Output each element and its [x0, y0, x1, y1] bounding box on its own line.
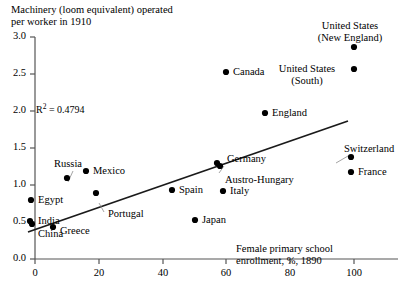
- x-tick-label-40: 40: [148, 267, 178, 279]
- label-canada: Canada: [233, 66, 265, 78]
- label-greece: Greece: [60, 225, 90, 237]
- label-germany: Germany: [227, 153, 266, 165]
- label-portugal: Portugal: [108, 208, 144, 220]
- scatter-chart: Machinery (loom equivalent) operatedper …: [0, 0, 403, 299]
- x-tick-label-0: 0: [20, 267, 50, 279]
- x-axis-title: Female primary schoolenrollment, %, 1890: [236, 243, 333, 267]
- x-axis-title-line1: Female primary school: [236, 243, 333, 254]
- label-united-states-new-england: United States(New England): [300, 20, 400, 44]
- label-spain: Spain: [179, 184, 203, 196]
- point-russia: [64, 175, 70, 181]
- label-us-ne-line1: United States: [322, 20, 378, 31]
- label-united-states-south: United States(South): [269, 63, 345, 87]
- label-italy: Italy: [230, 185, 249, 197]
- point-spain: [169, 187, 175, 193]
- x-tick-label-60: 60: [211, 267, 241, 279]
- label-us-ne-line2: (New England): [318, 32, 382, 43]
- r-squared-symbol: R: [36, 104, 43, 115]
- y-tick-label-1-5: 1.5: [2, 141, 26, 153]
- point-mexico: [83, 168, 89, 174]
- y-tick-label-0-0: 0.0: [2, 252, 26, 264]
- point-japan: [192, 217, 198, 223]
- point-china: [29, 221, 35, 227]
- x-tick-label-100: 100: [339, 267, 369, 279]
- y-axis-title-line2: per worker in 1910: [11, 16, 91, 27]
- label-england: England: [272, 107, 307, 119]
- label-india: India: [38, 215, 60, 227]
- plot-area: [0, 0, 403, 299]
- point-austro-hungary: [217, 163, 223, 169]
- trendline: [28, 121, 348, 232]
- y-tick-label-1-0: 1.0: [2, 178, 26, 190]
- y-tick-label-2-0: 2.0: [2, 104, 26, 116]
- x-axis-title-line2: enrollment, %, 1890: [236, 255, 322, 266]
- label-france: France: [358, 166, 387, 178]
- label-russia: Russia: [54, 158, 82, 170]
- r-squared-annotation: R2 = 0.4794: [36, 104, 85, 115]
- label-us-south-line2: (South): [291, 75, 323, 86]
- point-egypt: [28, 197, 34, 203]
- y-axis-title: Machinery (loom equivalent) operatedper …: [11, 4, 173, 28]
- x-tick-label-80: 80: [275, 267, 305, 279]
- point-france: [348, 169, 354, 175]
- point-united-states-new-england: [351, 44, 357, 50]
- label-mexico: Mexico: [93, 165, 125, 177]
- label-egypt: Egypt: [38, 194, 63, 206]
- x-tick-label-20: 20: [84, 267, 114, 279]
- y-tick-label-3-0: 3.0: [2, 30, 26, 42]
- point-england: [262, 110, 268, 116]
- y-axis-title-line1: Machinery (loom equivalent) operated: [11, 4, 173, 15]
- label-switzerland: Switzerland: [344, 143, 394, 155]
- label-japan: Japan: [202, 214, 226, 226]
- point-italy: [220, 188, 226, 194]
- label-us-south-line1: United States: [279, 63, 335, 74]
- y-tick-label-2-5: 2.5: [2, 67, 26, 79]
- point-portugal: [93, 190, 99, 196]
- point-united-states-south: [351, 66, 357, 72]
- point-canada: [223, 69, 229, 75]
- r-squared-value: = 0.4794: [46, 104, 84, 115]
- y-tick-label-0-5: 0.5: [2, 215, 26, 227]
